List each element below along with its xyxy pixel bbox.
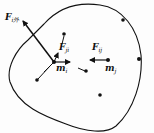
external-force-label: Fi外 <box>5 13 19 23</box>
diagram-canvas <box>0 0 154 133</box>
particle-p1 <box>62 32 66 36</box>
particle-p4 <box>35 78 39 82</box>
particle-p5 <box>98 93 102 97</box>
label-sub: ij <box>98 46 102 53</box>
force-ji-label: Fji <box>59 43 69 53</box>
particle-p3 <box>137 57 141 61</box>
label-sub: j <box>115 67 117 74</box>
link-line <box>38 66 50 79</box>
system-boundary <box>9 4 141 131</box>
external-force-arrow <box>23 21 54 62</box>
mass-i-label: mi <box>56 64 67 74</box>
small-arrow-p6 <box>78 68 85 71</box>
label-sub: i外 <box>11 16 19 23</box>
particle-p6 <box>84 69 88 73</box>
force-ij-label: Fij <box>92 43 102 53</box>
label-sub: ji <box>65 46 69 53</box>
force-diagram: Fi外 Fji mi Fij mj <box>0 0 154 133</box>
label-main: m <box>105 63 115 73</box>
particle-mj <box>106 58 110 62</box>
label-sub: i <box>66 67 68 74</box>
mass-j-label: mj <box>105 64 116 74</box>
particle-p2 <box>121 18 125 22</box>
label-main: m <box>56 63 66 73</box>
